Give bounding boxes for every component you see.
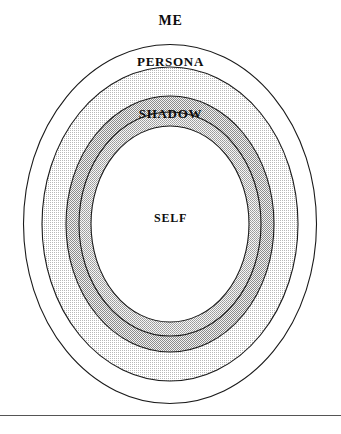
layer-label-persona: PERSONA (0, 55, 341, 68)
layer-label-self: SELF (0, 212, 341, 224)
bottom-divider (0, 415, 341, 416)
layer-label-shadow: SHADOW (0, 107, 341, 120)
diagram-figure: ME PERSONA SHADOW SELF (0, 0, 341, 434)
layer-label-me: ME (0, 14, 341, 28)
